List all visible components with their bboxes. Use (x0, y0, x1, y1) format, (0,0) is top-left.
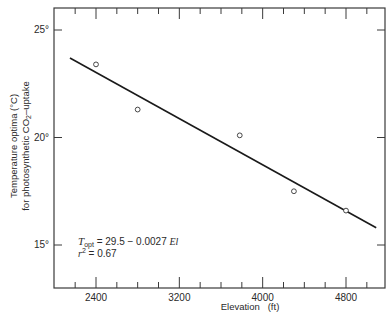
r-squared: r2 = 0.67 (78, 247, 117, 259)
y-tick-labels: 15°20°25° (34, 24, 49, 250)
x-tick-label: 4800 (335, 292, 358, 303)
y-tick-label: 25° (34, 24, 49, 35)
y-axis-label-line1: Temperature optima (°C) (8, 94, 19, 198)
y-tick-label: 15° (34, 239, 49, 250)
data-point (94, 62, 99, 67)
y-tick-label: 20° (34, 132, 49, 143)
regression-line (70, 58, 376, 228)
x-axis-label: Elevation (ft) (221, 301, 280, 312)
data-point (344, 208, 349, 213)
equation-annotation: Topt = 29.5 − 0.0027 El r2 = 0.67 (78, 235, 179, 259)
data-point (292, 189, 297, 194)
y-axis-label-line2: for photosynthetic CO2–uptake (20, 81, 32, 211)
x-tick-label: 2400 (85, 292, 108, 303)
regression-equation: Topt = 29.5 − 0.0027 El (78, 235, 179, 249)
x-tick-label: 3200 (168, 292, 191, 303)
y-axis-label: Temperature optima (°C) for photosynthet… (8, 81, 32, 211)
data-point (135, 107, 140, 112)
data-point (237, 133, 242, 138)
scatter-chart: 2400320040004800 15°20°25° Elevation (ft… (0, 0, 392, 322)
